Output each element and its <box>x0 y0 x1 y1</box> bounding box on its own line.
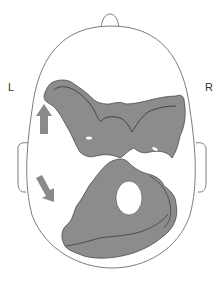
head-diagram: L R <box>0 0 223 281</box>
left-side-label: L <box>8 81 14 93</box>
upper-lesion-void-left <box>86 137 92 140</box>
right-side-label: R <box>205 81 213 93</box>
right-ear-outline <box>196 143 206 192</box>
lower-lesion-void <box>116 181 142 215</box>
